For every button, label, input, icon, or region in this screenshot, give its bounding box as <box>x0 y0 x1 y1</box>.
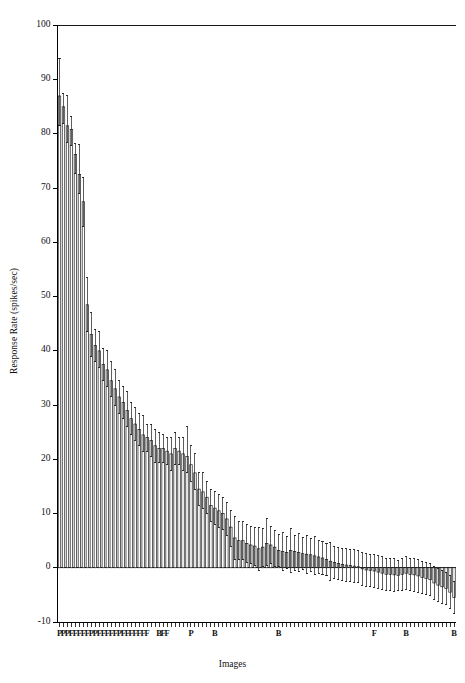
bar <box>170 454 172 568</box>
bar <box>118 397 120 568</box>
bar <box>158 448 160 567</box>
bar <box>126 411 128 568</box>
chart-figure: Response Rate (spikes/sec) Images -10010… <box>0 0 465 683</box>
bar <box>174 448 176 567</box>
bar <box>98 351 100 568</box>
bar <box>142 435 144 568</box>
bar <box>62 107 64 568</box>
bar <box>122 402 124 567</box>
bar <box>94 345 96 567</box>
bar <box>130 419 132 568</box>
bar <box>86 305 88 568</box>
bar <box>78 175 80 568</box>
bar <box>74 155 76 568</box>
bar <box>150 440 152 567</box>
bar <box>182 454 184 568</box>
bar <box>82 202 84 568</box>
bar <box>154 446 156 568</box>
bar <box>58 96 60 568</box>
bar <box>138 429 140 567</box>
chart-bars <box>58 96 455 598</box>
bar <box>166 451 168 568</box>
chart-plot-area <box>0 0 465 683</box>
bar <box>102 364 104 567</box>
x-axis-ticks <box>59 622 454 627</box>
bar <box>146 438 148 568</box>
bar <box>114 389 116 568</box>
bar <box>66 126 68 568</box>
bar <box>70 130 72 568</box>
bar <box>134 424 136 568</box>
bar <box>106 370 108 568</box>
bar <box>178 451 180 568</box>
bar <box>162 448 164 567</box>
bar <box>110 381 112 568</box>
bar <box>90 335 92 568</box>
